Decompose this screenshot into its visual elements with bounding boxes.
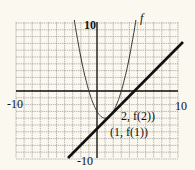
secant-line [68,42,183,158]
point-label-1: (1, f(1)) [110,125,148,139]
curve-label-f: f [140,11,145,25]
function-graph: 10 -10 -10 10 f 2, f(2)) (1, f(1)) [0,0,195,170]
x-right-tick-label: 10 [175,99,187,113]
y-top-tick-label: 10 [84,18,96,32]
x-left-tick-label: -10 [7,97,23,111]
point-label-2: 2, f(2)) [121,109,155,123]
y-bottom-tick-label: -10 [77,154,93,168]
